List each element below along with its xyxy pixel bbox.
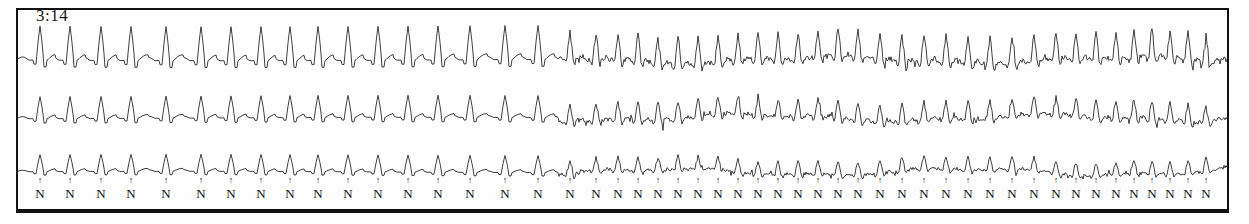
beat-marker-icon: ↑ — [371, 176, 385, 184]
beat-marker-icon: ↑ — [563, 176, 577, 184]
beat-annotation[interactable]: ↑N — [124, 176, 138, 201]
beat-annotation[interactable]: ↑N — [651, 176, 665, 201]
beat-marker-icon: ↑ — [671, 176, 685, 184]
beat-annotation[interactable]: ↑N — [1109, 176, 1123, 201]
beat-annotation[interactable]: ↑N — [1049, 176, 1063, 201]
beat-annotation[interactable]: ↑N — [611, 176, 625, 201]
beat-marker-icon: ↑ — [341, 176, 355, 184]
beat-annotation[interactable]: ↑N — [1163, 176, 1177, 201]
beat-label: N — [1049, 187, 1063, 201]
beat-marker-icon: ↑ — [731, 176, 745, 184]
beat-annotation[interactable]: ↑N — [33, 176, 47, 201]
beat-annotation[interactable]: ↑N — [563, 176, 577, 201]
beat-marker-icon: ↑ — [311, 176, 325, 184]
beat-annotation[interactable]: ↑N — [531, 176, 545, 201]
beat-annotation[interactable]: ↑N — [983, 176, 997, 201]
beat-marker-icon: ↑ — [1145, 176, 1159, 184]
beat-label: N — [873, 187, 887, 201]
beat-marker-icon: ↑ — [401, 176, 415, 184]
beat-label: N — [791, 187, 805, 201]
beat-annotation[interactable]: ↑N — [917, 176, 931, 201]
beat-annotation[interactable]: ↑N — [341, 176, 355, 201]
beat-annotation[interactable]: ↑N — [1005, 176, 1019, 201]
beat-annotation[interactable]: ↑N — [851, 176, 865, 201]
beat-annotation[interactable]: ↑N — [401, 176, 415, 201]
beat-annotation[interactable]: ↑N — [895, 176, 909, 201]
beat-annotation[interactable]: ↑N — [283, 176, 297, 201]
beat-label: N — [589, 187, 603, 201]
beat-marker-icon: ↑ — [983, 176, 997, 184]
beat-annotation[interactable]: ↑N — [194, 176, 208, 201]
beat-annotation[interactable]: ↑N — [631, 176, 645, 201]
beat-label: N — [983, 187, 997, 201]
beat-annotation[interactable]: ↑N — [63, 176, 77, 201]
beat-marker-icon: ↑ — [33, 176, 47, 184]
beat-label: N — [1163, 187, 1177, 201]
beat-annotation[interactable]: ↑N — [254, 176, 268, 201]
beat-marker-icon: ↑ — [873, 176, 887, 184]
beat-marker-icon: ↑ — [94, 176, 108, 184]
beat-annotation[interactable]: ↑N — [1145, 176, 1159, 201]
beat-annotation-row: ↑N↑N↑N↑N↑N↑N↑N↑N↑N↑N↑N↑N↑N↑N↑N↑N↑N↑N↑N↑N… — [18, 176, 1227, 208]
beat-label: N — [563, 187, 577, 201]
beat-annotation[interactable]: ↑N — [1181, 176, 1195, 201]
beat-annotation[interactable]: ↑N — [711, 176, 725, 201]
beat-annotation[interactable]: ↑N — [224, 176, 238, 201]
beat-marker-icon: ↑ — [1069, 176, 1083, 184]
beat-marker-icon: ↑ — [939, 176, 953, 184]
beat-annotation[interactable]: ↑N — [1027, 176, 1041, 201]
beat-label: N — [691, 187, 705, 201]
beat-annotation[interactable]: ↑N — [311, 176, 325, 201]
beat-label: N — [224, 187, 238, 201]
beat-annotation[interactable]: ↑N — [431, 176, 445, 201]
beat-annotation[interactable]: ↑N — [771, 176, 785, 201]
beat-annotation[interactable]: ↑N — [1199, 176, 1213, 201]
beat-label: N — [751, 187, 765, 201]
beat-annotation[interactable]: ↑N — [831, 176, 845, 201]
beat-marker-icon: ↑ — [224, 176, 238, 184]
beat-annotation[interactable]: ↑N — [873, 176, 887, 201]
beat-marker-icon: ↑ — [1163, 176, 1177, 184]
beat-annotation[interactable]: ↑N — [1127, 176, 1141, 201]
beat-marker-icon: ↑ — [961, 176, 975, 184]
beat-annotation[interactable]: ↑N — [371, 176, 385, 201]
beat-label: N — [1089, 187, 1103, 201]
beat-label: N — [498, 187, 512, 201]
beat-marker-icon: ↑ — [771, 176, 785, 184]
beat-label: N — [1145, 187, 1159, 201]
beat-annotation[interactable]: ↑N — [671, 176, 685, 201]
ecg-rhythm-strip: 3:14 ↑N↑N↑N↑N↑N↑N↑N↑N↑N↑N↑N↑N↑N↑N↑N↑N↑N↑… — [0, 0, 1249, 224]
timestamp-label: 3:14 — [36, 7, 68, 24]
ecg-trace-2 — [18, 94, 1227, 131]
beat-annotation[interactable]: ↑N — [691, 176, 705, 201]
beat-annotation[interactable]: ↑N — [159, 176, 173, 201]
beat-label: N — [895, 187, 909, 201]
beat-marker-icon: ↑ — [895, 176, 909, 184]
beat-marker-icon: ↑ — [1199, 176, 1213, 184]
beat-marker-icon: ↑ — [691, 176, 705, 184]
beat-annotation[interactable]: ↑N — [589, 176, 603, 201]
beat-label: N — [1109, 187, 1123, 201]
beat-annotation[interactable]: ↑N — [939, 176, 953, 201]
beat-annotation[interactable]: ↑N — [1069, 176, 1083, 201]
ecg-trace-1 — [18, 26, 1227, 72]
beat-label: N — [194, 187, 208, 201]
beat-marker-icon: ↑ — [611, 176, 625, 184]
beat-annotation[interactable]: ↑N — [731, 176, 745, 201]
beat-marker-icon: ↑ — [531, 176, 545, 184]
beat-annotation[interactable]: ↑N — [94, 176, 108, 201]
beat-annotation[interactable]: ↑N — [751, 176, 765, 201]
beat-annotation[interactable]: ↑N — [961, 176, 975, 201]
beat-marker-icon: ↑ — [124, 176, 138, 184]
beat-annotation[interactable]: ↑N — [463, 176, 477, 201]
beat-annotation[interactable]: ↑N — [811, 176, 825, 201]
beat-annotation[interactable]: ↑N — [498, 176, 512, 201]
beat-annotation[interactable]: ↑N — [791, 176, 805, 201]
beat-label: N — [851, 187, 865, 201]
beat-label: N — [1027, 187, 1041, 201]
beat-label: N — [1181, 187, 1195, 201]
beat-marker-icon: ↑ — [63, 176, 77, 184]
beat-marker-icon: ↑ — [831, 176, 845, 184]
beat-annotation[interactable]: ↑N — [1089, 176, 1103, 201]
beat-marker-icon: ↑ — [1089, 176, 1103, 184]
